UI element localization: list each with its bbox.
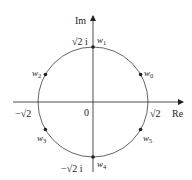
real-axis-label: Re	[172, 108, 184, 119]
root-point-w3	[44, 128, 48, 132]
root-point-w1	[91, 45, 95, 49]
origin-label: 0	[84, 107, 89, 118]
imag-axis-label: Im	[75, 15, 86, 26]
root-point-w4	[91, 155, 95, 159]
neg-imag-radius-label: −√2 i	[61, 163, 83, 174]
complex-plane-diagram: Re Im 0 √2 −√2 √2 i −√2 i w0 w1 w2 w3 w4…	[0, 0, 192, 180]
root-label-w4: w4	[97, 159, 107, 170]
root-label-w1: w1	[97, 35, 106, 46]
root-label-w2: w2	[32, 68, 41, 79]
root-point-w2	[44, 73, 48, 77]
root-point-w0	[139, 73, 143, 77]
root-label-w3: w3	[37, 133, 46, 144]
pos-imag-radius-label: √2 i	[72, 36, 88, 47]
neg-real-radius-label: −√2	[15, 108, 31, 119]
root-label-w5: w5	[143, 133, 152, 144]
root-point-w5	[139, 128, 143, 132]
pos-real-radius-label: √2	[150, 108, 161, 119]
root-label-w0: w0	[144, 68, 153, 79]
